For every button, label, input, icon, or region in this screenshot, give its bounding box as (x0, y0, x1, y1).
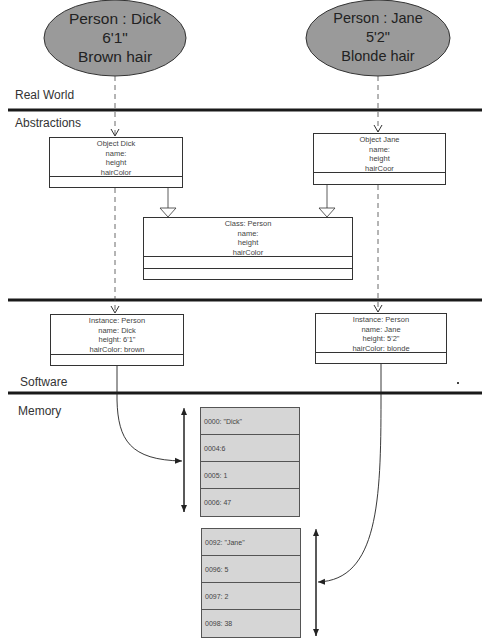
person-dick-line: 6'1" (45, 28, 185, 47)
person-dick-line: Brown hair (45, 47, 185, 66)
object-dick-methods (50, 177, 182, 187)
person-jane-line: Blonde hair (306, 47, 450, 66)
object-jane-title: Object Jane (314, 135, 445, 145)
memory-cell: 0098: 38 (202, 610, 300, 637)
memory-cell: 0097: 2 (202, 583, 300, 610)
class-person-title: Class: Person (144, 219, 352, 229)
class-person-section (144, 257, 352, 269)
object-jane-attr: name: (314, 145, 445, 155)
layer-label-real-world: Real World (15, 88, 74, 102)
person-jane-label: Person : Jane 5'2" Blonde hair (306, 9, 450, 66)
object-dick-attr: height (50, 158, 182, 168)
dick-instance-to-memory-arrow (117, 366, 182, 461)
class-person-box: Class: Person name: height hairColor (143, 217, 353, 280)
instance-dick-attr: hairColor: brown (51, 345, 183, 355)
memory-cell: 0005: 1 (201, 462, 299, 489)
object-jane-methods (314, 173, 445, 184)
instance-dick-box: Instance: Person name: Dick height: 6'1"… (50, 314, 184, 366)
instance-jane-attr: hairColor: blonde (316, 344, 446, 354)
memory-cell: 0092: "Jane" (202, 529, 300, 556)
layer-label-memory: Memory (18, 404, 61, 418)
class-person-attr: height (144, 238, 352, 248)
instance-dick-attr: height: 6'1" (51, 335, 183, 345)
instance-jane-attr: height: 5'2" (316, 334, 446, 344)
layer-label-software: Software (20, 375, 67, 389)
memory-block-jane: 0092: "Jane" 0096: 5 0097: 2 0098: 38 (201, 528, 301, 638)
memory-cell: 0004:6 (201, 435, 299, 462)
instance-dick-attr: name: Dick (51, 326, 183, 336)
class-person-section (144, 269, 352, 279)
object-dick-box: Object Dick name: height hairColor (49, 137, 183, 188)
memory-block-dick: 0000: "Dick" 0004:6 0005: 1 0006: 47 (200, 407, 300, 517)
layer-label-abstractions: Abstractions (15, 116, 81, 130)
instance-jane-box: Instance: Person name: Jane height: 5'2"… (315, 313, 447, 364)
instance-dick-methods (51, 355, 183, 365)
object-dick-title: Object Dick (50, 139, 182, 149)
stray-dot (457, 382, 459, 384)
object-jane-box: Object Jane name: height hairCoor (313, 133, 446, 185)
object-jane-attr: hairCoor (314, 164, 445, 174)
person-dick-line: Person : Dick (45, 9, 185, 28)
object-dick-attr: name: (50, 149, 182, 159)
instance-jane-attr: name: Jane (316, 325, 446, 335)
memory-cell: 0006: 47 (201, 489, 299, 516)
instance-jane-methods (316, 353, 446, 363)
instance-dick-title: Instance: Person (51, 316, 183, 326)
object-dick-attr: hairColor (50, 168, 182, 178)
jane-instance-to-memory-arrow (318, 364, 381, 582)
instance-jane-title: Instance: Person (316, 315, 446, 325)
person-jane-line: Person : Jane (306, 9, 450, 28)
generalization-triangle-icon (160, 208, 176, 217)
person-dick-label: Person : Dick 6'1" Brown hair (45, 9, 185, 66)
person-jane-line: 5'2" (306, 28, 450, 47)
memory-cell: 0096: 5 (202, 556, 300, 583)
object-jane-attr: height (314, 154, 445, 164)
class-person-attr: hairColor (144, 248, 352, 258)
class-person-attr: name: (144, 229, 352, 239)
generalization-triangle-icon (319, 208, 335, 217)
memory-cell: 0000: "Dick" (201, 408, 299, 435)
